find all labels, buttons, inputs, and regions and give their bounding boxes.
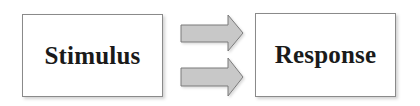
response-label: Response (275, 41, 377, 69)
right-arrow-icon (181, 58, 243, 96)
right-arrow-icon (181, 15, 243, 51)
response-node: Response (255, 13, 396, 97)
